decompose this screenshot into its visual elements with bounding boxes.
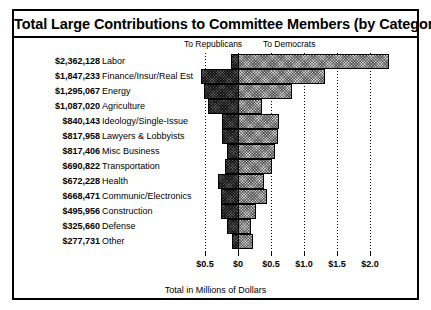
- bar-republican: [204, 84, 240, 99]
- title-divider: [14, 36, 417, 38]
- legend-label-democrats: To Democrats: [263, 39, 315, 49]
- row-category-label: Agriculture: [102, 101, 145, 111]
- row-amount: $817,958: [22, 131, 100, 141]
- row-amount: $668,471: [22, 191, 100, 201]
- row-amount: $2,362,128: [22, 56, 100, 66]
- row-category-label: Transportation: [102, 161, 160, 171]
- axis-tick-label-2: $0.5: [262, 259, 280, 269]
- row-amount: $495,956: [22, 206, 100, 216]
- row-category-label: Construction: [102, 206, 153, 216]
- row-category-label: Finance/Insur/Real Est: [102, 71, 193, 81]
- bar-democrat: [238, 219, 251, 234]
- x-axis-title: Total in Millions of Dollars: [14, 285, 417, 295]
- legend-label-republicans: To Republicans: [184, 39, 242, 49]
- row-amount: $690,822: [22, 161, 100, 171]
- bar-democrat: [238, 174, 264, 189]
- bar-republican: [218, 174, 240, 189]
- row-amount: $817,406: [22, 146, 100, 156]
- row-amount: $1,847,233: [22, 71, 100, 81]
- axis-tick-label-5: $2.0: [361, 259, 379, 269]
- axis-tick-label-1: $0: [233, 259, 243, 269]
- row-category-label: Defense: [102, 221, 136, 231]
- axis-tick-0: [205, 251, 206, 256]
- row-category-label: Labor: [102, 56, 125, 66]
- bar-democrat: [238, 234, 253, 249]
- gridline-5: [370, 53, 371, 251]
- row-category-label: Energy: [102, 86, 131, 96]
- plot-area: $2,362,128Labor$1,847,233Finance/Insur/R…: [14, 53, 419, 258]
- row-amount: $325,660: [22, 221, 100, 231]
- row-amount: $840,143: [22, 116, 100, 126]
- axis-tick-label-0: $0.5: [196, 259, 214, 269]
- row-category-label: Communic/Electronics: [102, 191, 192, 201]
- gridline-4: [337, 53, 338, 251]
- bar-democrat: [238, 54, 389, 69]
- row-amount: $1,295,067: [22, 86, 100, 96]
- bar-republican: [201, 69, 240, 84]
- bar-democrat: [238, 99, 262, 114]
- row-category-label: Health: [102, 176, 128, 186]
- axis-tick-2: [271, 251, 272, 256]
- bar-democrat: [238, 84, 292, 99]
- axis-tick-5: [370, 251, 371, 256]
- chart-container: Total Large Contributions to Committee M…: [12, 9, 419, 300]
- bar-democrat: [238, 204, 256, 219]
- axis-tick-4: [337, 251, 338, 256]
- chart-title: Total Large Contributions to Committee M…: [14, 16, 417, 32]
- axis-tick-label-3: $1.0: [295, 259, 313, 269]
- axis-tick-3: [304, 251, 305, 256]
- row-amount: $672,228: [22, 176, 100, 186]
- axis-tick-1: [238, 251, 239, 256]
- bar-democrat: [238, 114, 279, 129]
- row-category-label: Lawyers & Lobbyists: [102, 131, 185, 141]
- row-category-label: Misc Business: [102, 146, 160, 156]
- bar-democrat: [238, 69, 325, 84]
- bar-democrat: [238, 189, 267, 204]
- bar-democrat: [238, 129, 278, 144]
- axis-tick-label-4: $1.5: [328, 259, 346, 269]
- bar-democrat: [238, 159, 272, 174]
- bar-democrat: [238, 144, 275, 159]
- row-category-label: Ideology/Single-Issue: [102, 116, 188, 126]
- row-category-label: Other: [102, 236, 125, 246]
- bar-republican: [208, 99, 240, 114]
- row-amount: $277,731: [22, 236, 100, 246]
- row-amount: $1,087,020: [22, 101, 100, 111]
